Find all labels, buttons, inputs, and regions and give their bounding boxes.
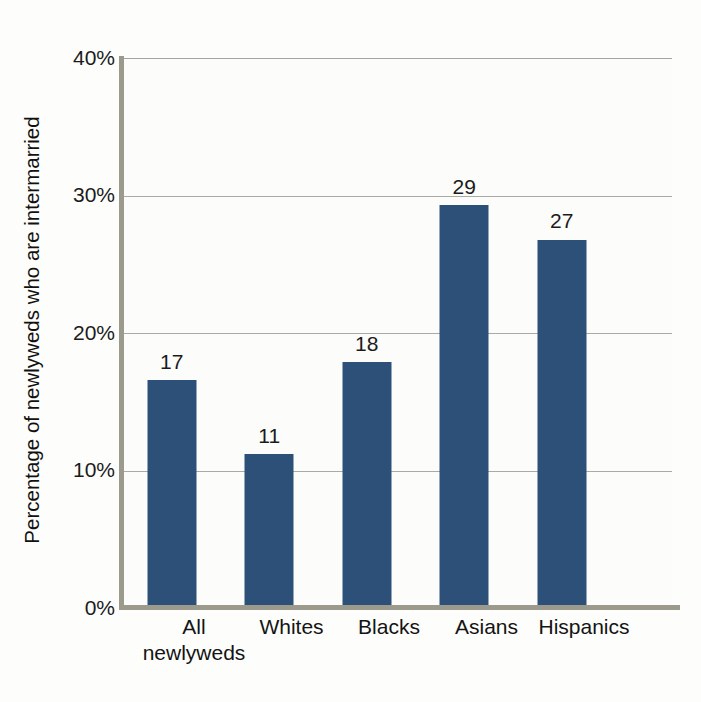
- bar-all-newlyweds[interactable]: [147, 380, 196, 608]
- x-axis-line: [119, 605, 680, 610]
- bar-hispanics[interactable]: [537, 240, 586, 609]
- y-tick-label-0: 0%: [3, 596, 115, 620]
- x-tick-label-line1: Hispanics: [509, 614, 659, 640]
- bar-value-hispanics: 27: [550, 209, 573, 233]
- y-axis-line: [119, 56, 124, 610]
- bar-chart-figure: 40% 30% 20% 10% 0% Percentage of newlywe…: [0, 0, 701, 702]
- bar-group-whites: 11: [221, 58, 319, 608]
- bar-value-whites: 11: [258, 424, 280, 448]
- x-tick-label-line2: newlyweds: [119, 640, 269, 666]
- y-axis-tick-labels: 40% 30% 20% 10% 0%: [0, 0, 115, 702]
- bar-blacks[interactable]: [342, 362, 391, 608]
- bar-group-hispanics: 27: [513, 58, 611, 608]
- bar-value-all-newlyweds: 17: [160, 350, 183, 374]
- bar-group-asians: 29: [416, 58, 514, 608]
- bar-value-asians: 29: [453, 175, 476, 199]
- bar-group-all-newlyweds: 17: [123, 58, 221, 608]
- bar-value-blacks: 18: [355, 332, 378, 356]
- bar-whites[interactable]: [245, 454, 294, 608]
- x-tick-label-hispanics: Hispanics: [509, 614, 659, 640]
- bar-group-blacks: 18: [318, 58, 416, 608]
- y-tick-label-40: 40%: [3, 46, 115, 70]
- plot-area: 17 11 18 29 27: [123, 58, 672, 608]
- y-axis-title: Percentage of newlyweds who are intermar…: [20, 80, 44, 580]
- bar-asians[interactable]: [440, 205, 489, 608]
